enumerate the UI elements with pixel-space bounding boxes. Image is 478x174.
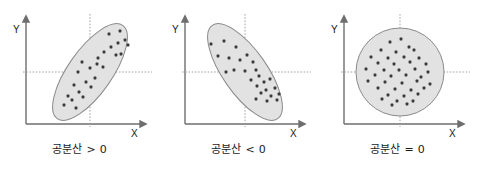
data-point — [401, 82, 404, 85]
data-point — [63, 104, 66, 107]
data-point — [389, 41, 392, 44]
data-point — [102, 66, 105, 69]
data-point — [255, 98, 258, 101]
data-point — [235, 46, 238, 49]
data-point — [81, 61, 84, 64]
data-point — [120, 53, 123, 56]
data-point — [380, 49, 383, 52]
data-point — [96, 63, 99, 66]
covariance-figure: YX공분산 > 0YX공분산 < 0YX공분산 = 0 — [0, 0, 478, 174]
data-point — [260, 92, 263, 95]
data-point — [115, 54, 118, 57]
x-axis-label: X — [131, 128, 138, 139]
data-point — [393, 63, 396, 66]
data-point — [210, 43, 213, 46]
data-point — [278, 93, 281, 96]
data-point — [265, 89, 268, 92]
data-point — [252, 61, 255, 64]
data-point — [73, 84, 76, 87]
data-point — [119, 30, 122, 33]
data-point — [429, 83, 432, 86]
data-point — [89, 67, 92, 70]
data-point — [244, 70, 247, 73]
data-point — [367, 80, 370, 83]
data-point — [78, 91, 81, 94]
data-point — [427, 71, 430, 74]
data-point — [374, 74, 377, 77]
data-point — [246, 54, 249, 57]
data-point — [383, 69, 386, 72]
scatter-plot-1: YX — [0, 0, 159, 143]
data-point — [250, 79, 253, 82]
data-point — [405, 74, 408, 77]
data-point — [85, 81, 88, 84]
data-point — [127, 44, 130, 47]
data-point — [256, 85, 259, 88]
data-point — [103, 51, 106, 54]
data-point — [269, 78, 272, 81]
data-point — [387, 57, 390, 60]
data-point — [71, 99, 74, 102]
data-point — [408, 46, 411, 49]
panel-caption: 공분산 > 0 — [0, 143, 159, 157]
distribution-envelope-circle — [356, 28, 444, 116]
panel-caption: 공분산 < 0 — [159, 143, 318, 157]
data-point — [413, 49, 416, 52]
data-point — [258, 75, 261, 78]
data-point — [417, 93, 420, 96]
data-point — [263, 81, 266, 84]
data-point — [387, 94, 390, 97]
data-point — [67, 95, 70, 98]
data-point — [97, 57, 100, 60]
data-point — [276, 99, 279, 102]
data-point — [377, 62, 380, 65]
data-point — [228, 57, 231, 60]
data-point — [416, 80, 419, 83]
panel-caption: 공분산 = 0 — [318, 143, 477, 157]
y-axis-label: Y — [13, 24, 20, 35]
scatter-panel-1: YX공분산 > 0 — [0, 0, 159, 174]
data-point — [77, 71, 80, 74]
data-point — [418, 57, 421, 60]
data-point — [410, 89, 413, 92]
data-point — [365, 68, 368, 71]
data-point — [390, 75, 393, 78]
data-point — [370, 56, 373, 59]
data-point — [90, 86, 93, 89]
data-point — [233, 69, 236, 72]
scatter-plot-2: YX — [159, 0, 318, 143]
data-point — [420, 76, 423, 79]
data-point — [223, 40, 226, 43]
data-point — [377, 87, 380, 90]
y-axis-label: Y — [331, 24, 338, 35]
y-axis-label: Y — [172, 24, 179, 35]
data-point — [381, 98, 384, 101]
data-point — [108, 33, 111, 36]
scatter-panel-2: YX공분산 < 0 — [159, 0, 318, 174]
x-axis-label: X — [290, 128, 297, 139]
data-point — [398, 69, 401, 72]
scatter-panel-3: YX공분산 = 0 — [318, 0, 477, 174]
data-point — [255, 69, 258, 72]
data-point — [75, 107, 78, 110]
data-point — [409, 61, 412, 64]
scatter-plot-3: YX — [318, 0, 477, 143]
data-point — [423, 87, 426, 90]
data-point — [124, 39, 127, 42]
data-point — [400, 38, 403, 41]
data-point — [414, 68, 417, 71]
data-point — [425, 63, 428, 66]
data-point — [94, 77, 97, 80]
data-point — [82, 96, 85, 99]
data-point — [217, 55, 220, 58]
data-point — [395, 51, 398, 54]
data-point — [239, 59, 242, 62]
data-point — [270, 95, 273, 98]
data-point — [117, 42, 120, 45]
data-point — [274, 87, 277, 90]
data-point — [412, 100, 415, 103]
data-point — [384, 81, 387, 84]
data-point — [110, 46, 113, 49]
data-point — [403, 95, 406, 98]
data-point — [225, 71, 228, 74]
